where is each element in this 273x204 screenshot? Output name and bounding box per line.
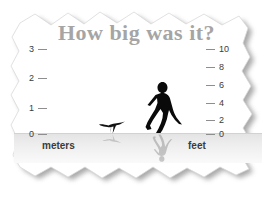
- right-tick-6: 6: [206, 79, 224, 91]
- left-axis-meters: 3 2 1 0: [24, 0, 84, 204]
- tick-mark-icon: [206, 67, 215, 68]
- right-tick-8: 8: [206, 61, 224, 73]
- left-tick-2: 2: [24, 72, 47, 84]
- left-tick-label-1: 1: [24, 102, 34, 114]
- scale-comparison-figure: How big was it? 3 2 1 0 1: [0, 0, 273, 204]
- right-tick-4: 4: [206, 97, 224, 109]
- right-axis-feet: 10 8 6 4 2 0: [200, 0, 260, 204]
- tick-mark-icon: [206, 134, 215, 135]
- left-axis-unit-label: meters: [42, 140, 75, 151]
- right-tick-0: 0: [206, 128, 224, 140]
- human-silhouette: [138, 78, 184, 134]
- human-reflection: [138, 134, 184, 164]
- tick-mark-icon: [206, 85, 215, 86]
- right-tick-label-2: 2: [219, 114, 224, 126]
- right-tick-label-10: 10: [219, 43, 229, 55]
- tick-mark-icon: [206, 103, 215, 104]
- right-tick-10: 10: [206, 43, 229, 55]
- tick-mark-icon: [38, 49, 47, 50]
- right-tick-2: 2: [206, 114, 224, 126]
- right-axis-unit-label: feet: [188, 140, 206, 151]
- left-tick-label-2: 2: [24, 72, 34, 84]
- tick-mark-icon: [38, 108, 47, 109]
- tick-mark-icon: [206, 120, 215, 121]
- dinosaur-reflection: [98, 134, 126, 145]
- tick-mark-icon: [206, 49, 215, 50]
- left-tick-3: 3: [24, 43, 47, 55]
- right-tick-label-0: 0: [219, 128, 224, 140]
- left-tick-label-0: 0: [24, 128, 34, 140]
- left-tick-0: 0: [24, 128, 47, 140]
- right-tick-label-8: 8: [219, 61, 224, 73]
- right-tick-label-4: 4: [219, 97, 224, 109]
- plot-area: How big was it? 3 2 1 0 1: [0, 0, 273, 204]
- right-tick-label-6: 6: [219, 79, 224, 91]
- dinosaur-silhouette: [98, 119, 126, 134]
- left-tick-1: 1: [24, 102, 47, 114]
- left-tick-label-3: 3: [24, 43, 34, 55]
- tick-mark-icon: [38, 134, 47, 135]
- tick-mark-icon: [38, 78, 47, 79]
